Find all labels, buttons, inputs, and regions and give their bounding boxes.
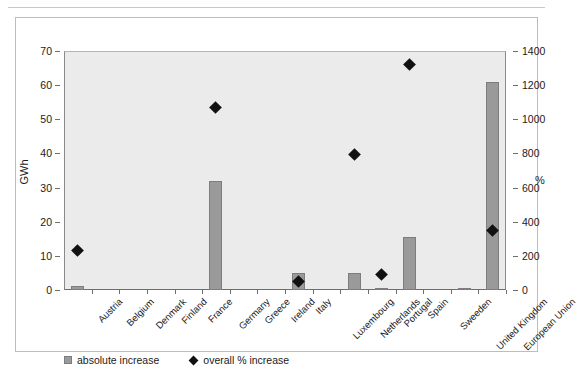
right-axis-tick-label: 1200 [522,80,545,90]
cropped-title-band [0,0,553,5]
right-axis-tick-mark [513,256,518,257]
category-tick-mark [147,290,148,294]
chart-frame: 010203040506070 020040060080010001200140… [15,17,538,352]
left-axis-tick-label: 30 [40,183,52,193]
category-tick-mark [423,290,424,294]
left-axis-tick-label: 20 [40,217,52,227]
left-axis-tick-mark [55,119,60,120]
left-axis-tick-mark [55,256,60,257]
category-label-ireland: Ireland [289,296,317,324]
legend-entry-overall-percent-increase: overall % increase [189,354,289,366]
chart-legend: absolute increase overall % increase [64,354,289,366]
category-label-italy: Italy [313,296,333,316]
left-axis-tick-label: 10 [40,251,52,261]
category-tick-mark [175,290,176,294]
right-axis-tick-label: 200 [522,251,540,261]
category-tick-mark [313,290,314,294]
left-axis-tick-mark [55,222,60,223]
left-axis-tick-mark [55,188,60,189]
right-axis-tick-mark [513,119,518,120]
diamond-marker-icon [189,355,199,365]
top-divider-rule [8,7,545,8]
right-axis-tick-label: 400 [522,217,540,227]
left-axis-tick-label: 40 [40,148,52,158]
right-axis-tick-mark [513,222,518,223]
bar-swatch-icon [64,356,72,364]
category-tick-mark [451,290,452,294]
category-tick-mark [478,290,479,294]
left-axis-title: GWh [18,159,30,184]
legend-label-absolute-increase: absolute increase [77,354,159,366]
category-tick-mark [257,290,258,294]
right-axis-tick-mark [513,85,518,86]
left-axis-tick-label: 60 [40,80,52,90]
left-axis-tick-mark [55,153,60,154]
right-axis-tick-label: 1000 [522,114,545,124]
category-tick-mark [285,290,286,294]
bar-united-kingdom [458,288,471,290]
left-axis-tick-mark [55,51,60,52]
right-axis-tick-label: 800 [522,148,540,158]
legend-entry-absolute-increase: absolute increase [64,354,159,366]
category-label-sweeden: Sweeden [458,296,494,332]
category-label-france: France [206,296,235,325]
bar-european-union [486,82,499,290]
legend-label-overall-percent-increase: overall % increase [203,354,289,366]
category-tick-mark [506,290,507,294]
category-label-european-union: European Union [521,296,577,352]
bar-austria [71,286,84,290]
category-tick-mark [340,290,341,294]
category-label-belgium: Belgium [124,296,156,328]
right-axis-title: % [535,174,545,186]
right-axis-tick-label: 1400 [522,46,545,56]
category-tick-mark [396,290,397,294]
category-tick-mark [230,290,231,294]
plot-area [64,51,506,290]
category-label-austria: Austria [95,296,124,325]
right-value-axis: 0200400600800100012001400 [513,51,555,290]
bar-netherlands [348,273,361,290]
left-axis-tick-mark [55,290,60,291]
bar-spain [403,237,416,290]
right-axis-tick-label: 0 [522,285,528,295]
category-tick-mark [368,290,369,294]
left-axis-tick-mark [55,85,60,86]
right-axis-tick-mark [513,153,518,154]
category-tick-mark [92,290,93,294]
left-axis-tick-label: 0 [46,285,52,295]
left-axis-tick-label: 50 [40,114,52,124]
bar-portugal [375,288,388,290]
left-axis-tick-label: 70 [40,46,52,56]
bar-germany [209,181,222,290]
right-axis-tick-mark [513,51,518,52]
category-tick-mark [202,290,203,294]
right-axis-tick-mark [513,188,518,189]
right-axis-tick-mark [513,290,518,291]
category-tick-mark [119,290,120,294]
